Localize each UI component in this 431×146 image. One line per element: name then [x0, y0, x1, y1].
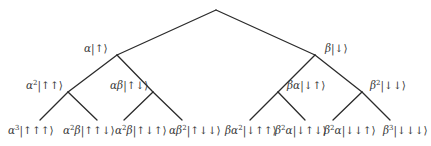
- node-label-beta-squared: β2|↓↓⟩: [370, 80, 406, 91]
- node-label-alpha: α|↑⟩: [84, 43, 108, 54]
- leaf-label: βα2|↓↑↑⟩: [225, 125, 277, 136]
- tree-edge: [117, 10, 216, 55]
- leaf-label: α2β|↑↑↓⟩: [63, 125, 115, 136]
- tree-edge: [124, 92, 153, 120]
- tree-edge: [40, 92, 68, 120]
- tree-edge: [216, 10, 315, 55]
- tree-edge: [333, 92, 362, 120]
- node-label-beta-alpha: βα|↓↑⟩: [287, 80, 325, 91]
- tree-edge: [278, 92, 305, 120]
- node-label-alpha-beta: αβ|↑↓⟩: [110, 80, 148, 91]
- tree-edge: [362, 92, 390, 120]
- leaf-label: β2α|↓↓↑⟩: [324, 125, 376, 136]
- leaf-label: α3|↑↑↑⟩: [8, 125, 54, 136]
- leaf-label: αβ2|↑↓↓⟩: [169, 125, 221, 136]
- node-label-beta: β|↓⟩: [325, 43, 348, 54]
- spin-state-tree-diagram: α|↑⟩ β|↓⟩ α2|↑↑⟩ αβ|↑↓⟩ βα|↓↑⟩ β2|↓↓⟩ α3…: [0, 0, 431, 146]
- ket: |↑⟩: [91, 42, 107, 54]
- leaf-label: β2α|↓↑↓⟩: [275, 125, 327, 136]
- tree-edge: [68, 92, 97, 120]
- node-label-alpha-squared: α2|↑↑⟩: [26, 80, 63, 91]
- leaf-label: β3|↓↓↓⟩: [383, 125, 428, 136]
- tree-edge: [250, 92, 278, 120]
- leaf-label: α2β|↑↓↑⟩: [115, 125, 167, 136]
- tree-edge: [153, 92, 182, 120]
